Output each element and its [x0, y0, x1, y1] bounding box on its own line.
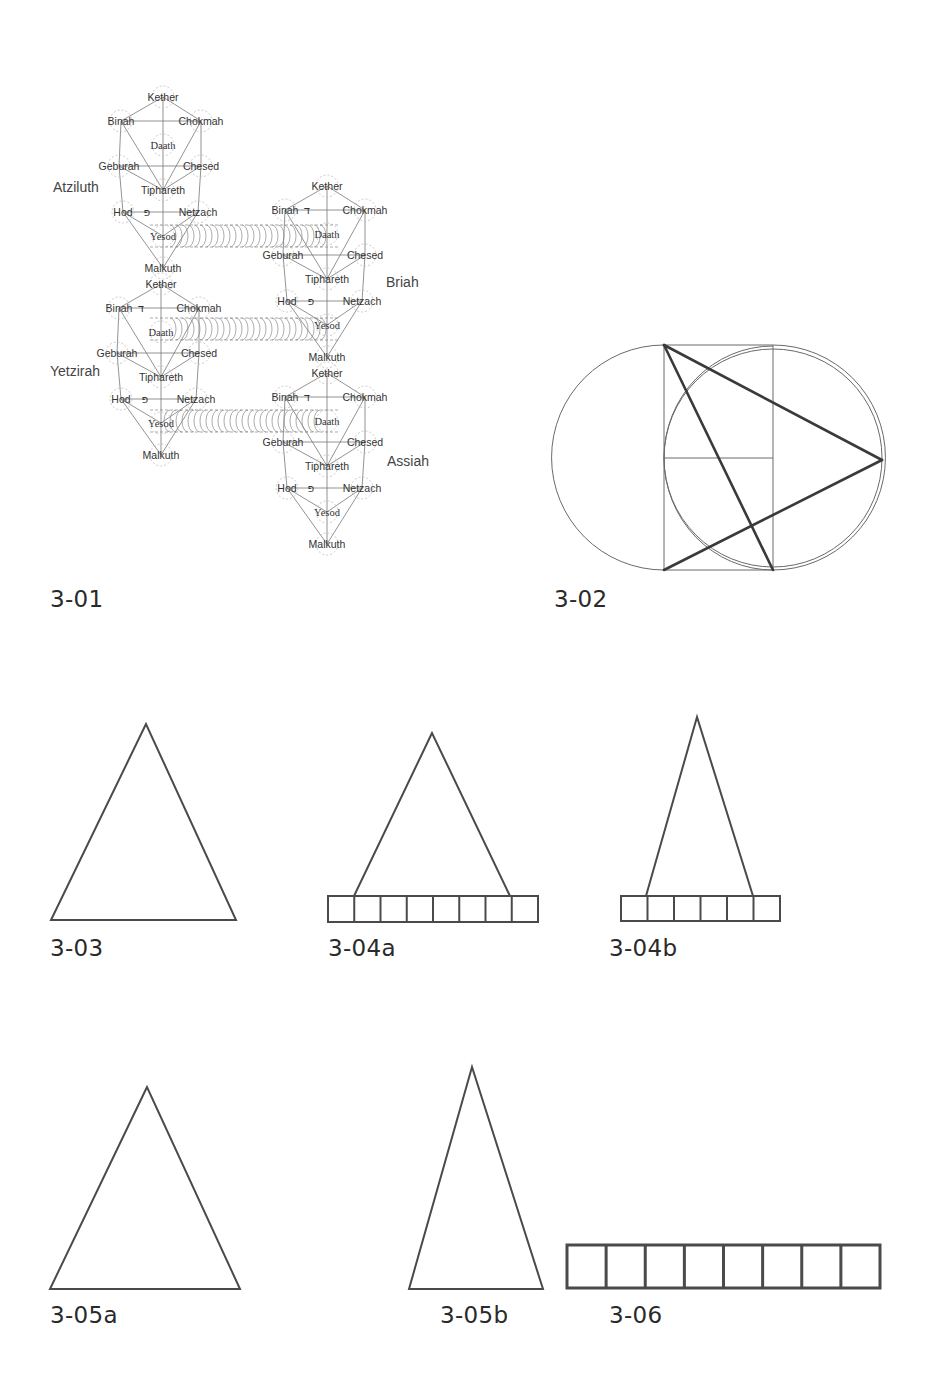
- caption-3-04a: 3-04a: [328, 935, 396, 961]
- right-arc: [773, 345, 885, 570]
- caption-3-05a: 3-05a: [50, 1302, 118, 1328]
- triangle-3-05b: [409, 1067, 543, 1289]
- caption-3-03: 3-03: [50, 935, 103, 961]
- caption-3-04b: 3-04b: [609, 935, 677, 961]
- triangle-3-04a: [354, 733, 510, 896]
- triangle-3-04b: [646, 717, 753, 896]
- bar-3-04b: [621, 896, 780, 921]
- construction-diagram: [0, 0, 928, 600]
- bar-3-06: [567, 1245, 880, 1288]
- triangle-3-03: [51, 724, 236, 920]
- figure-3-02: [0, 0, 928, 600]
- left-arc: [552, 345, 664, 570]
- triangle-3-05a: [50, 1087, 240, 1289]
- bar-3-04a: [328, 896, 538, 922]
- caption-3-02: 3-02: [554, 586, 607, 612]
- caption-3-06: 3-06: [609, 1302, 662, 1328]
- caption-3-05b: 3-05b: [440, 1302, 508, 1328]
